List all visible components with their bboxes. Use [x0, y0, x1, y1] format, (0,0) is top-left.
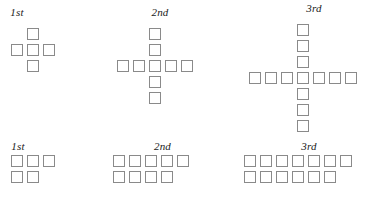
- unit-square: [297, 120, 309, 132]
- unit-square: [145, 171, 157, 183]
- unit-square: [276, 155, 288, 167]
- unit-square: [297, 88, 309, 100]
- unit-square: [281, 72, 293, 84]
- figure-canvas: 1st 2nd 3rd 1st 2nd 3rd: [0, 0, 367, 201]
- unit-square: [292, 155, 304, 167]
- unit-square: [329, 72, 341, 84]
- unit-square: [308, 155, 320, 167]
- square-grid-bottom-2nd: [113, 155, 225, 189]
- figure-label-top-3rd: 3rd: [262, 2, 366, 14]
- unit-square: [149, 92, 161, 104]
- unit-square: [260, 171, 272, 183]
- unit-square: [244, 155, 256, 167]
- unit-square: [177, 155, 189, 167]
- unit-square: [149, 60, 161, 72]
- unit-square: [113, 171, 125, 183]
- unit-square: [297, 24, 309, 36]
- unit-square: [313, 72, 325, 84]
- figure-label-bottom-2nd: 2nd: [100, 140, 225, 152]
- unit-square: [324, 155, 336, 167]
- square-grid-bottom-3rd: [244, 155, 367, 189]
- square-grid-bottom-1st: [11, 155, 110, 189]
- unit-square: [297, 104, 309, 116]
- unit-square: [27, 28, 39, 40]
- unit-square: [11, 171, 23, 183]
- unit-square: [165, 60, 177, 72]
- unit-square: [11, 44, 23, 56]
- unit-square: [161, 171, 173, 183]
- unit-square: [145, 155, 157, 167]
- unit-square: [133, 60, 145, 72]
- unit-square: [27, 44, 39, 56]
- unit-square: [27, 171, 39, 183]
- figure-label-top-2nd: 2nd: [96, 6, 224, 18]
- square-grid-top-3rd: [249, 24, 366, 136]
- unit-square: [244, 171, 256, 183]
- unit-square: [113, 155, 125, 167]
- unit-square: [345, 72, 357, 84]
- unit-square: [129, 155, 141, 167]
- unit-square: [276, 171, 288, 183]
- figure-label-bottom-3rd: 3rd: [251, 140, 367, 152]
- unit-square: [265, 72, 277, 84]
- unit-square: [129, 171, 141, 183]
- unit-square: [27, 155, 39, 167]
- unit-square: [249, 72, 261, 84]
- figure-top-3rd: 3rd: [240, 2, 366, 136]
- square-grid-top-2nd: [117, 28, 224, 108]
- unit-square: [161, 155, 173, 167]
- unit-square: [292, 171, 304, 183]
- unit-square: [324, 171, 336, 183]
- unit-square: [340, 155, 352, 167]
- unit-square: [297, 72, 309, 84]
- unit-square: [297, 56, 309, 68]
- unit-square: [43, 155, 55, 167]
- unit-square: [149, 76, 161, 88]
- figure-bottom-1st: 1st: [0, 140, 110, 189]
- unit-square: [27, 60, 39, 72]
- unit-square: [181, 60, 193, 72]
- figure-label-bottom-1st: 1st: [0, 140, 110, 152]
- unit-square: [11, 155, 23, 167]
- figure-bottom-3rd: 3rd: [235, 140, 367, 189]
- unit-square: [43, 44, 55, 56]
- unit-square: [149, 28, 161, 40]
- unit-square: [308, 171, 320, 183]
- unit-square: [260, 155, 272, 167]
- unit-square: [117, 60, 129, 72]
- unit-square: [297, 40, 309, 52]
- figure-bottom-2nd: 2nd: [100, 140, 225, 189]
- figure-top-2nd: 2nd: [104, 6, 224, 108]
- unit-square: [149, 44, 161, 56]
